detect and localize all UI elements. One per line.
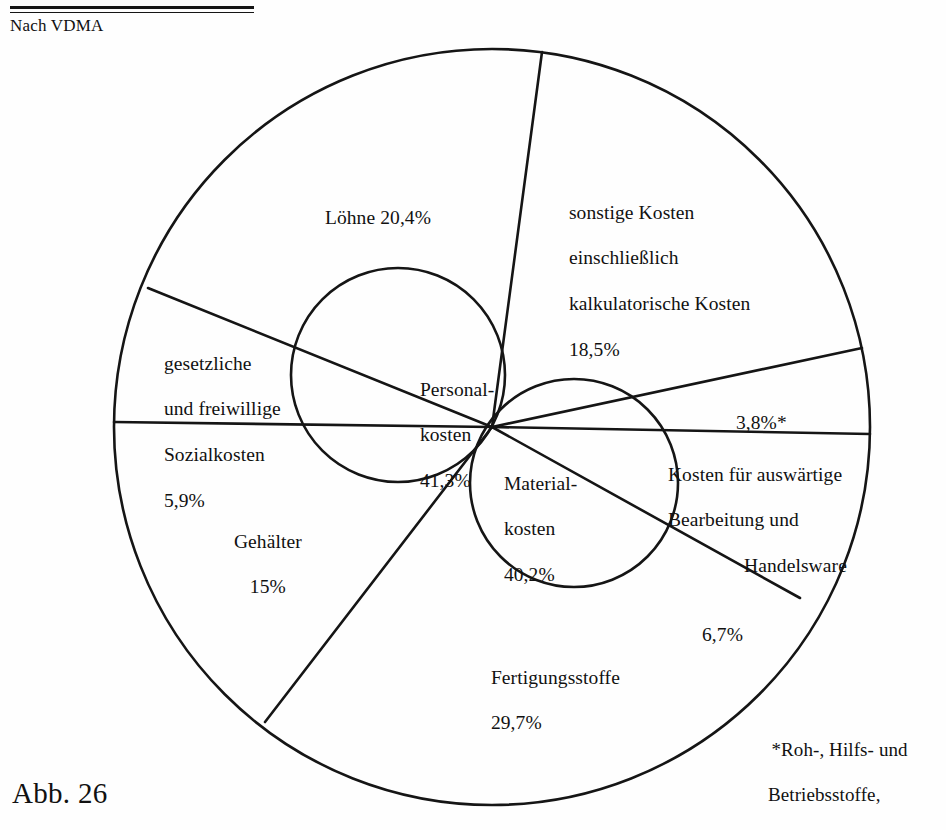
label-sonstige-line2: einschließlich: [569, 247, 679, 268]
label-personal-line3: 41,3%: [420, 470, 471, 491]
label-material-line3: 40,2%: [504, 564, 555, 585]
label-fertigungsstoffe: Fertigungsstoffe 29,7%: [471, 644, 620, 758]
label-rohstoffe-line1: 3,8%*: [736, 412, 787, 433]
label-sozial-line4: 5,9%: [164, 490, 205, 511]
label-sonstige-line3: kalkulatorische Kosten: [569, 293, 750, 314]
label-loehne: Löhne 20,4%: [305, 184, 431, 252]
label-loehne-line1: Löhne 20,4%: [325, 207, 431, 228]
label-personal-line1: Personal-: [420, 379, 495, 400]
divider-loehne-sonstige: [492, 52, 542, 427]
label-sonstige-line1: sonstige Kosten: [569, 202, 695, 223]
label-sozial-line2: und freiwillige: [164, 398, 281, 419]
label-sonstige-line4: 18,5%: [569, 339, 620, 360]
label-personalkosten: Personal- kosten 41,3%: [400, 356, 494, 516]
label-material-line1: Material-: [504, 473, 577, 494]
label-sozialkosten: gesetzliche und freiwillige Sozialkosten…: [144, 330, 281, 535]
label-auswaertige-bearbeitung: Kosten für auswärtige Bearbeitung und Ha…: [648, 441, 847, 692]
label-material-line2: kosten: [504, 518, 556, 539]
label-sonstige-kosten: sonstige Kosten einschließlich kalkulato…: [549, 179, 750, 384]
label-fert-line2: 29,7%: [491, 712, 542, 733]
footnote-line1: *Roh-, Hilfs- und: [771, 739, 907, 760]
label-auswaert-line1: Kosten für auswärtige: [668, 464, 842, 485]
label-gehaelter-line1: Gehälter: [234, 531, 302, 552]
label-auswaert-line4: 6,7%: [648, 624, 847, 647]
figure-caption: Abb. 26: [12, 777, 108, 810]
label-sozial-line3: Sozialkosten: [164, 444, 265, 465]
footnote-line2: Betriebsstoffe,: [752, 784, 919, 806]
label-auswaert-line2: Bearbeitung und: [668, 509, 799, 530]
figure-root: Nach VDMA Löhne 20,4% sonstige Kosten ei…: [0, 0, 946, 830]
divider-rohstoffe-auswaertige: [492, 427, 870, 434]
label-sozial-line1: gesetzliche: [164, 353, 252, 374]
label-gehaelter-line2: 15%: [250, 576, 286, 597]
footnote-rohstoffe: *Roh-, Hilfs- und Betriebsstoffe, Energi…: [752, 717, 919, 830]
label-personal-line2: kosten: [420, 424, 472, 445]
label-gehaelter: Gehälter 15%: [214, 508, 302, 622]
label-fert-line1: Fertigungsstoffe: [491, 667, 620, 688]
label-auswaert-line3: Handelsware: [648, 555, 847, 578]
label-materialkosten: Material- kosten 40,2%: [484, 450, 577, 610]
